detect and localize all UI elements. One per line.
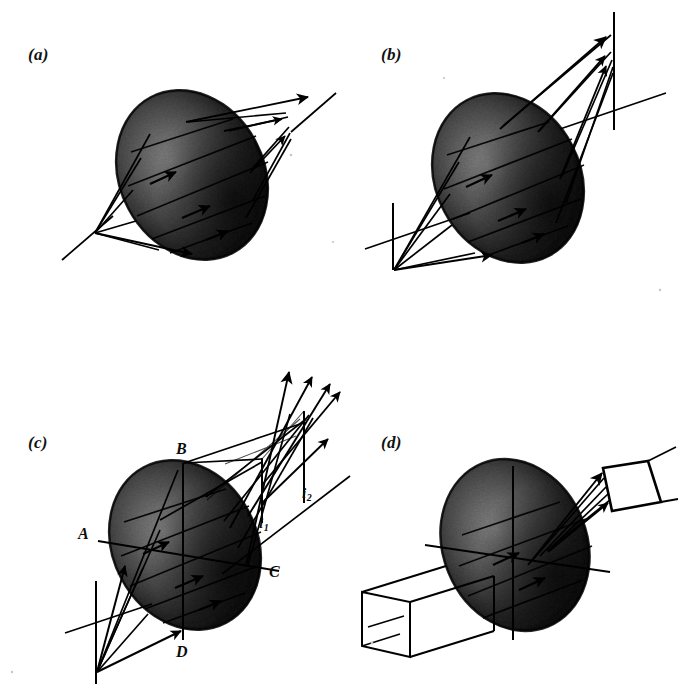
image-plane-label-i2-base: i [302,485,306,501]
axis-label-b: B [176,440,187,458]
axis-label-a: A [78,525,89,543]
image-plane-label-i2: i2 [302,485,311,502]
figure-svg-canvas [0,0,680,684]
image-plane-label-i1-sub: 1 [264,522,269,533]
axis-label-c: C [269,563,280,581]
image-plane-label-i2-sub: 2 [307,492,312,503]
axis-label-d: D [176,643,188,661]
panel-label-d: (d) [381,433,402,453]
image-plane-label-i1-base: i [259,515,263,531]
panel-label-c: (c) [28,433,48,453]
panel-label-b: (b) [381,45,402,65]
figure-root: (a) (b) (c) (d) B A C D i1 i2 [0,0,680,684]
image-plane-label-i1: i1 [259,515,268,532]
panel-label-a: (a) [28,45,49,65]
